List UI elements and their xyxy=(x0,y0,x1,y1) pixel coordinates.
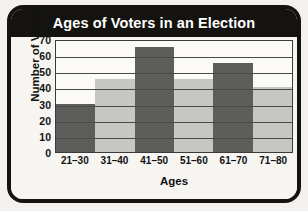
bar-series xyxy=(56,41,292,152)
bar xyxy=(174,79,213,152)
chart-title-bar: Ages of Voters in an Election xyxy=(10,8,298,37)
chart-card: Ages of Voters in an Election Number of … xyxy=(7,5,301,203)
plot-area xyxy=(55,40,293,153)
y-axis-tick-label: 40 xyxy=(29,83,51,94)
x-axis-tick-label: 51–60 xyxy=(174,155,214,166)
y-axis-tick-label: 20 xyxy=(29,115,51,126)
chart-title: Ages of Voters in an Election xyxy=(53,15,255,31)
x-axis-tick-label: 71–80 xyxy=(253,155,293,166)
y-axis-tick-label: 10 xyxy=(29,132,51,143)
bar xyxy=(135,47,174,152)
y-axis-tick-labels: 010203040506070 xyxy=(29,40,51,153)
x-axis-tick-label: 31–40 xyxy=(95,155,135,166)
y-axis-tick-label: 30 xyxy=(29,99,51,110)
bar xyxy=(95,79,134,152)
x-axis-tick-labels: 21–3031–4041–5051–6061–7071–80 xyxy=(55,155,293,166)
bar xyxy=(56,104,95,152)
y-axis-tick-label: 60 xyxy=(29,51,51,62)
y-axis-tick-label: 70 xyxy=(29,35,51,46)
x-axis-label: Ages xyxy=(55,175,293,187)
bar xyxy=(253,87,292,152)
x-axis-tick-label: 61–70 xyxy=(214,155,254,166)
x-axis-tick-label: 41–50 xyxy=(134,155,174,166)
x-axis-tick-label: 21–30 xyxy=(55,155,95,166)
y-axis-tick-label: 0 xyxy=(29,148,51,159)
y-axis-tick-label: 50 xyxy=(29,67,51,78)
bar xyxy=(213,63,252,152)
chart-body: Number of Voters 010203040506070 21–3031… xyxy=(11,38,297,199)
